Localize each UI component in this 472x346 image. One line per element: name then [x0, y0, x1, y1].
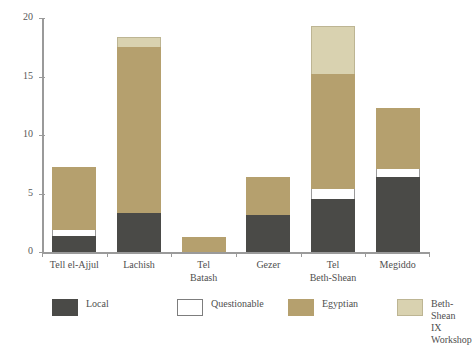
bar-segment-questionable — [311, 189, 355, 200]
x-axis-labels: Tell el-AjjulLachishTel BatashGezerTel B… — [42, 258, 430, 292]
legend-label-local: Local — [86, 298, 109, 310]
bar-segment-egyptian — [376, 108, 420, 169]
bar-segment-egyptian — [117, 47, 161, 213]
x-label-1: Lachish — [107, 258, 172, 271]
bar-segment-egyptian — [311, 74, 355, 189]
x-tick-2 — [171, 252, 172, 257]
bar-segment-egyptian — [246, 177, 290, 214]
bar-segment-egyptian — [52, 167, 96, 230]
bar-segment-bethshean — [117, 37, 161, 48]
legend-item-bethshean[interactable]: Beth-Shean IX Workshop — [397, 298, 472, 346]
legend-label-egyptian: Egyptian — [322, 298, 358, 310]
bar-lachish[interactable] — [117, 37, 161, 252]
chart-legend: LocalQuestionableEgyptianBeth-Shean IX W… — [52, 298, 422, 328]
legend-swatch-questionable — [177, 299, 203, 316]
bar-segment-local — [376, 177, 420, 252]
x-label-0: Tell el-Ajjul — [42, 258, 107, 271]
x-label-5: Megiddo — [365, 258, 430, 271]
legend-swatch-bethshean — [397, 299, 423, 316]
y-tick-label-15: 15 — [23, 70, 33, 82]
bar-tellel-ajjul[interactable] — [52, 167, 96, 252]
bar-segment-bethshean — [311, 26, 355, 74]
x-tick-3 — [236, 252, 237, 257]
bar-segment-local — [117, 213, 161, 252]
bar-gezer[interactable] — [246, 177, 290, 252]
x-label-2: Tel Batash — [171, 258, 236, 284]
legend-item-questionable[interactable]: Questionable — [177, 298, 264, 316]
bar-segment-questionable — [376, 169, 420, 177]
x-tick-6 — [429, 252, 430, 257]
x-tick-5 — [365, 252, 366, 257]
bar-segment-local — [311, 199, 355, 252]
x-tick-0 — [42, 252, 43, 257]
legend-item-local[interactable]: Local — [52, 298, 109, 316]
y-tick-label-10: 10 — [23, 128, 33, 140]
legend-label-questionable: Questionable — [211, 298, 264, 310]
plot-area: 05101520 — [42, 18, 430, 252]
bar-tel-beth-shean[interactable] — [311, 26, 355, 252]
legend-swatch-local — [52, 299, 78, 316]
x-tick-4 — [301, 252, 302, 257]
bar-segment-local — [52, 236, 96, 252]
y-tick-label-0: 0 — [28, 245, 33, 257]
bar-tel-batash[interactable] — [182, 237, 226, 252]
bars-layer — [42, 18, 430, 252]
bar-segment-egyptian — [182, 237, 226, 252]
y-tick-label-5: 5 — [28, 187, 33, 199]
legend-label-bethshean: Beth-Shean IX Workshop — [431, 298, 472, 346]
x-label-3: Gezer — [236, 258, 301, 271]
bar-megiddo[interactable] — [376, 108, 420, 252]
y-tick-label-20: 20 — [23, 11, 33, 23]
legend-swatch-egyptian — [288, 299, 314, 316]
x-label-4: Tel Beth-Shean — [301, 258, 366, 284]
x-tick-1 — [107, 252, 108, 257]
legend-item-egyptian[interactable]: Egyptian — [288, 298, 358, 316]
bar-segment-local — [246, 215, 290, 252]
